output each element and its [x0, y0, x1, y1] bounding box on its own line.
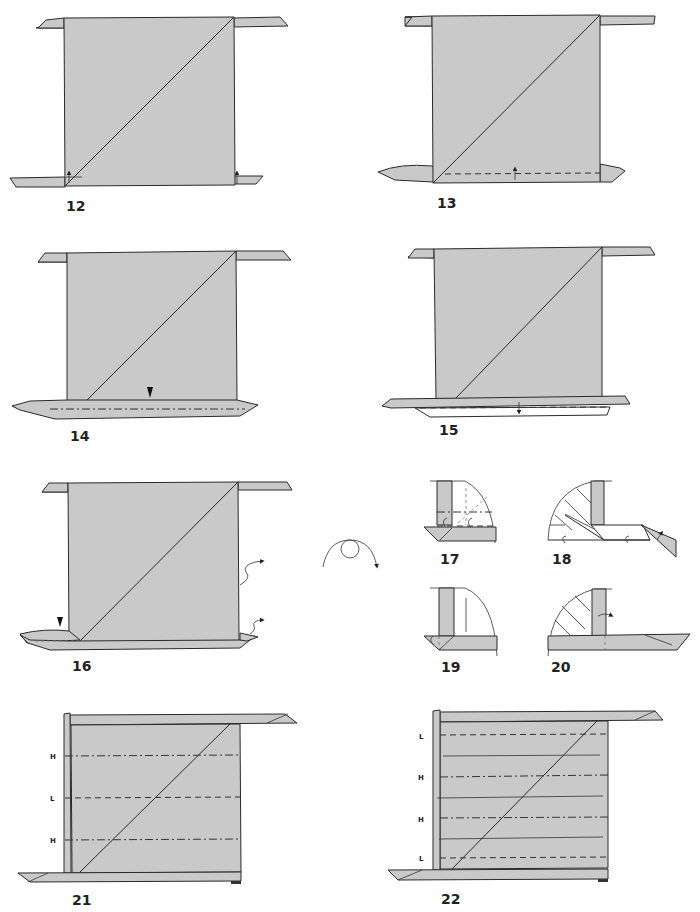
folded-strip-back — [415, 407, 610, 417]
step-number-14: 14 — [70, 428, 90, 444]
flap-bottom-right — [240, 633, 258, 641]
flap-top-right — [236, 251, 291, 260]
push-arrow-icon — [57, 617, 63, 627]
square-panel — [71, 724, 241, 873]
crease-label-h: H — [418, 774, 424, 782]
vertical-strip — [433, 710, 440, 870]
flap-top-left — [408, 249, 434, 258]
step-22: L H H L 22 — [388, 710, 663, 907]
step-16: 16 — [20, 482, 292, 674]
vertical-strip — [592, 589, 606, 636]
top-strip — [440, 711, 663, 722]
step-number-20: 20 — [551, 659, 571, 675]
step-number-16: 16 — [72, 658, 91, 674]
step-13: 13 — [378, 15, 655, 211]
bottom-strip — [18, 872, 241, 882]
flap-bottom-left — [10, 177, 65, 187]
top-strip — [70, 714, 297, 725]
vertical-strip — [437, 481, 452, 525]
crease-label-h: H — [50, 753, 56, 761]
square-panel — [68, 482, 239, 642]
step-number-19: 19 — [441, 659, 460, 675]
step-number-18: 18 — [552, 551, 571, 567]
crease-label-l: L — [419, 855, 424, 863]
flap-top-left — [42, 483, 68, 492]
flap-top-right — [602, 247, 655, 256]
crease-label-h: H — [418, 816, 424, 824]
vertical-strip — [439, 588, 454, 636]
flap-top-left-edge — [405, 16, 432, 26]
hatch — [577, 489, 592, 504]
crease-label-h: H — [50, 837, 56, 845]
flap-top-left-strip — [38, 18, 64, 28]
vertical-strip — [591, 481, 604, 525]
flap-bottom-right — [234, 176, 263, 184]
step-number-13: 13 — [437, 195, 456, 211]
bottom-strip — [424, 527, 496, 541]
step-number-12: 12 — [66, 198, 85, 214]
flap-top-right — [238, 482, 292, 490]
step-19: 19 — [424, 588, 497, 675]
corner-flap — [641, 525, 676, 557]
hatch — [565, 500, 590, 525]
step-17: 17 — [424, 481, 496, 567]
horizontal-strip — [548, 634, 690, 650]
hatch — [562, 606, 585, 629]
flap-top-right — [234, 17, 288, 27]
strip-tab — [598, 879, 608, 882]
step-20: 20 — [548, 589, 690, 675]
square-panel — [67, 251, 237, 402]
flap-bottom-right — [600, 164, 625, 182]
crease-label-l: L — [50, 795, 55, 803]
step-number-17: 17 — [440, 551, 459, 567]
xray-line — [458, 496, 488, 523]
vertical-strip — [64, 713, 71, 873]
step-number-15: 15 — [439, 422, 458, 438]
unfold-arrow-upper — [240, 561, 263, 585]
hatch — [575, 596, 590, 611]
step-12: 12 — [10, 17, 288, 214]
bottom-strip — [424, 636, 497, 650]
step-14: 14 — [12, 251, 291, 444]
flap-top-right — [600, 16, 655, 25]
strip-tab — [231, 881, 241, 884]
origami-diagram: 12 13 14 15 — [0, 0, 700, 912]
square-panel — [434, 247, 602, 399]
bottom-strip — [382, 396, 630, 408]
unfold-arrow-lower — [250, 620, 263, 634]
step-21: H L H 21 — [18, 713, 297, 908]
step-number-22: 22 — [441, 891, 460, 907]
step-number-21: 21 — [72, 892, 91, 908]
hatch — [555, 620, 570, 635]
hatch — [555, 515, 572, 530]
turn-over-icon — [323, 540, 377, 567]
step-15: 15 — [382, 247, 655, 438]
flap-top-left — [38, 253, 67, 262]
step-18: 18 — [548, 481, 676, 567]
crease-label-l: L — [419, 733, 424, 741]
